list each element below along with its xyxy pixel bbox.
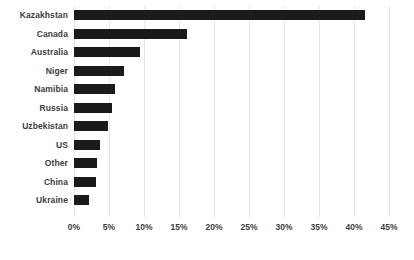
bar-us [74, 140, 100, 150]
x-tick-label-45pct: 45% [369, 222, 409, 232]
plot-area [74, 6, 389, 217]
bar-row [74, 80, 389, 99]
bar-namibia [74, 84, 115, 94]
bar-australia [74, 47, 140, 57]
bar-row [74, 99, 389, 118]
bar-uzbekistan [74, 121, 108, 131]
bar-chart: KazakhstanCanadaAustraliaNigerNamibiaRus… [0, 0, 414, 260]
x-tick-label-40pct: 40% [334, 222, 374, 232]
category-label-uzbekistan: Uzbekistan [0, 117, 68, 136]
bar-row [74, 154, 389, 173]
x-tick-label-5pct: 5% [89, 222, 129, 232]
bar-ukraine [74, 195, 89, 205]
category-axis: KazakhstanCanadaAustraliaNigerNamibiaRus… [0, 6, 68, 217]
bar-row [74, 43, 389, 62]
category-label-niger: Niger [0, 62, 68, 81]
x-tick-label-30pct: 30% [264, 222, 304, 232]
x-tick-label-0pct: 0% [54, 222, 94, 232]
x-tick-label-35pct: 35% [299, 222, 339, 232]
category-label-us: US [0, 136, 68, 155]
x-tick-label-20pct: 20% [194, 222, 234, 232]
bar-row [74, 173, 389, 192]
bar-row [74, 62, 389, 81]
bar-series [74, 6, 389, 217]
bar-row [74, 6, 389, 25]
bar-row [74, 25, 389, 44]
bar-row [74, 136, 389, 155]
x-tick-label-15pct: 15% [159, 222, 199, 232]
bar-other [74, 158, 97, 168]
value-axis: 0%5%10%15%20%25%30%35%40%45% [0, 222, 414, 242]
category-label-china: China [0, 173, 68, 192]
bar-china [74, 177, 96, 187]
bar-row [74, 117, 389, 136]
category-label-namibia: Namibia [0, 80, 68, 99]
category-label-other: Other [0, 154, 68, 173]
category-label-russia: Russia [0, 99, 68, 118]
x-tick-label-10pct: 10% [124, 222, 164, 232]
bar-niger [74, 66, 124, 76]
category-label-canada: Canada [0, 25, 68, 44]
gridline-45pct [389, 6, 390, 217]
x-tick-label-25pct: 25% [229, 222, 269, 232]
bar-kazakhstan [74, 10, 365, 20]
bar-canada [74, 29, 187, 39]
category-label-australia: Australia [0, 43, 68, 62]
bar-row [74, 191, 389, 210]
category-label-ukraine: Ukraine [0, 191, 68, 210]
category-label-kazakhstan: Kazakhstan [0, 6, 68, 25]
bar-russia [74, 103, 112, 113]
